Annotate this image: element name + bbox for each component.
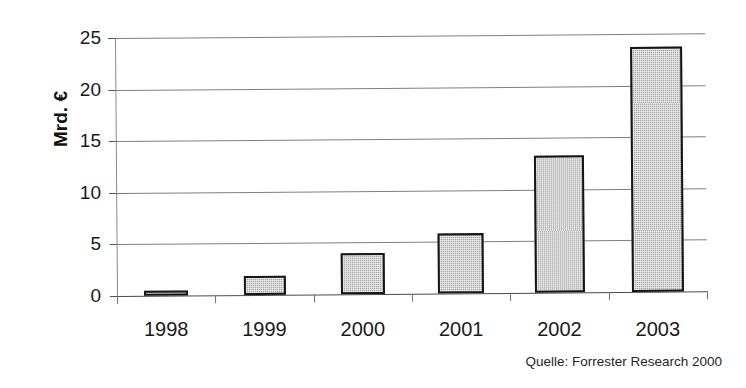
x-axis-tick: [609, 292, 610, 300]
gridline: [115, 33, 705, 39]
y-axis-tick-label: 15: [61, 131, 101, 150]
plot-area: [117, 38, 707, 296]
y-axis-tick-label: 25: [61, 28, 101, 47]
y-axis-tick-label: 20: [61, 80, 101, 99]
bar-2003: [630, 47, 684, 292]
y-axis-tick: [108, 90, 115, 91]
x-axis-tick-label: 1998: [121, 318, 211, 341]
bar-1999: [243, 276, 285, 295]
x-axis-tick-label: 2003: [613, 318, 703, 341]
x-axis-tick: [412, 294, 413, 302]
gridline: [115, 85, 705, 91]
y-axis-tick: [110, 244, 117, 245]
chart-page: Mrd. € 0510152025 1998199920002001200220…: [0, 0, 746, 388]
x-axis-tick: [117, 296, 118, 304]
x-axis-tick-label: 1999: [220, 318, 310, 341]
gridline: [117, 240, 707, 246]
x-axis-tick: [215, 295, 216, 303]
source-note: Quelle: Forrester Research 2000: [525, 354, 722, 369]
gridline: [116, 188, 706, 194]
bar-2002: [533, 155, 584, 293]
y-axis-tick-label: 0: [61, 286, 101, 305]
gridline-layer: [115, 33, 705, 38]
x-axis-tick: [510, 293, 511, 301]
y-axis-line: [115, 38, 118, 296]
y-axis-tick-label: 5: [61, 234, 101, 253]
bar-1998: [144, 290, 188, 296]
y-axis-tick: [109, 193, 116, 194]
x-axis-tick-label: 2000: [318, 318, 408, 341]
x-axis-tick: [314, 294, 315, 302]
x-axis-tick-label: 2002: [515, 318, 605, 341]
y-axis-tick: [110, 296, 117, 297]
bar-2001: [438, 233, 484, 293]
x-axis-tick-label: 2001: [416, 318, 506, 341]
y-axis-tick-label: 10: [61, 183, 101, 202]
bar-2000: [340, 253, 384, 295]
x-axis-tick: [707, 291, 708, 299]
plot-inner: [115, 33, 707, 296]
y-axis-tick: [108, 38, 115, 39]
gridline: [116, 137, 706, 143]
y-axis-tick: [109, 141, 116, 142]
